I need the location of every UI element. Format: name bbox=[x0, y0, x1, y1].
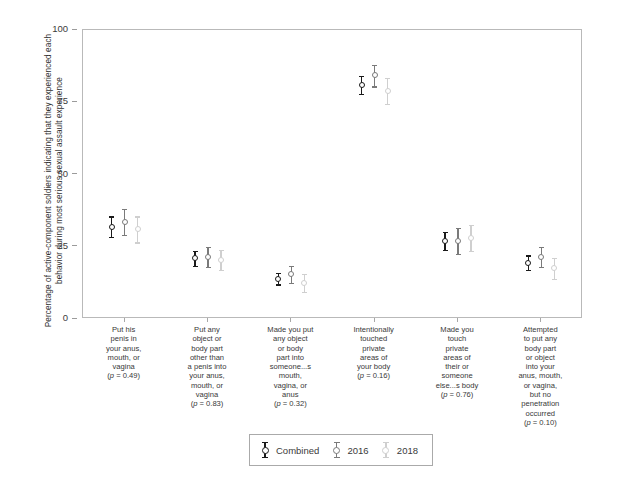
legend-item-2018[interactable]: 2018 bbox=[379, 440, 418, 460]
data-point-marker bbox=[442, 238, 448, 244]
x-axis-label-line: your anus, bbox=[84, 344, 164, 353]
ci-cap-lower bbox=[193, 266, 198, 267]
x-tick-mark bbox=[207, 318, 208, 322]
legend-point-marker bbox=[262, 447, 269, 454]
x-tick-mark bbox=[124, 318, 125, 322]
ci-cap-upper bbox=[372, 65, 377, 66]
data-point-marker bbox=[468, 235, 474, 241]
x-axis-label-line: into your bbox=[500, 362, 580, 371]
ci-cap-upper bbox=[456, 228, 461, 229]
legend-point-marker bbox=[333, 447, 340, 454]
legend-key-marker bbox=[258, 440, 272, 460]
ci-cap-lower bbox=[289, 283, 294, 284]
y-tick-label: 25 bbox=[40, 240, 68, 252]
ci-cap-upper bbox=[539, 247, 544, 248]
y-tick: 25 bbox=[40, 240, 82, 252]
x-axis-label-line: vagina bbox=[167, 390, 247, 399]
y-tick-mark bbox=[72, 173, 77, 174]
x-axis-label: Made you putany objector bodypart intoso… bbox=[250, 325, 330, 409]
x-axis-label-line: touch bbox=[417, 334, 497, 343]
x-axis-label-line: your body bbox=[334, 362, 414, 371]
x-axis-label-line: any object bbox=[250, 334, 330, 343]
y-axis-ticks: 0255075100 bbox=[0, 0, 82, 489]
ci-cap-lower bbox=[219, 270, 224, 271]
data-point-marker bbox=[275, 276, 281, 282]
chart-legend: Combined20162018 bbox=[249, 434, 433, 466]
x-tick-mark bbox=[457, 318, 458, 322]
x-axis-label-line: or vagina, bbox=[500, 381, 580, 390]
x-axis-label-line: Attempted bbox=[500, 325, 580, 334]
ci-cap-lower bbox=[206, 267, 211, 268]
legend-cap-upper bbox=[334, 442, 340, 443]
x-axis-label: Put hispenis inyour anus,mouth, orvagina… bbox=[84, 325, 164, 381]
ci-cap-lower bbox=[359, 94, 364, 95]
x-axis-label-line: or body bbox=[250, 344, 330, 353]
legend-cap-lower bbox=[262, 457, 268, 458]
x-axis-label-line: their or bbox=[417, 362, 497, 371]
x-axis-label-line: but no bbox=[500, 390, 580, 399]
x-axis-label-line: vagina, or bbox=[250, 381, 330, 390]
data-point-marker bbox=[551, 265, 557, 271]
legend-cap-upper bbox=[262, 442, 268, 443]
x-axis-pvalue: (p = 0.49) bbox=[84, 371, 164, 380]
ci-cap-upper bbox=[109, 216, 114, 217]
x-axis-pvalue: (p = 0.32) bbox=[250, 399, 330, 408]
ci-cap-lower bbox=[122, 235, 127, 236]
ci-cap-upper bbox=[219, 250, 224, 251]
data-point-marker bbox=[288, 271, 294, 277]
data-point-marker bbox=[192, 255, 198, 261]
data-point-marker bbox=[372, 72, 378, 78]
ci-cap-lower bbox=[276, 284, 281, 285]
x-axis-label-line: body part bbox=[167, 344, 247, 353]
x-axis-label-line: else...s body bbox=[417, 381, 497, 390]
legend-label: 2016 bbox=[348, 445, 369, 456]
y-tick: 0 bbox=[40, 312, 82, 324]
ci-cap-lower bbox=[469, 251, 474, 252]
data-point-marker bbox=[301, 280, 307, 286]
data-point-marker bbox=[122, 219, 128, 225]
x-axis-pvalue: (p = 0.76) bbox=[417, 390, 497, 399]
ci-cap-upper bbox=[443, 232, 448, 233]
legend-cap-lower bbox=[334, 457, 340, 458]
ci-cap-lower bbox=[443, 250, 448, 251]
x-axis-label-line: a penis into bbox=[167, 362, 247, 371]
legend-item-combined[interactable]: Combined bbox=[258, 440, 319, 460]
data-point-marker bbox=[109, 224, 115, 230]
data-point-marker bbox=[538, 254, 544, 260]
x-tick-mark bbox=[374, 318, 375, 322]
legend-key-marker bbox=[379, 440, 393, 460]
x-tick-mark bbox=[540, 318, 541, 322]
ci-cap-lower bbox=[456, 254, 461, 255]
x-axis-label-line: part into bbox=[250, 353, 330, 362]
x-axis-label-line: other than bbox=[167, 353, 247, 362]
x-axis-label-line: areas of bbox=[334, 353, 414, 362]
x-axis-label-line: someone...s bbox=[250, 362, 330, 371]
x-axis-pvalue: (p = 0.83) bbox=[167, 399, 247, 408]
x-axis-pvalue: (p = 0.10) bbox=[500, 418, 580, 427]
x-axis-label-line: private bbox=[417, 344, 497, 353]
ci-cap-lower bbox=[135, 242, 140, 243]
ci-cap-upper bbox=[276, 273, 281, 274]
x-axis-label-line: or object bbox=[500, 353, 580, 362]
x-axis-label-line: someone bbox=[417, 371, 497, 380]
chart-figure: Percentage of active-component soldiers … bbox=[0, 0, 618, 489]
data-point-marker bbox=[135, 226, 141, 232]
legend-key-marker bbox=[330, 440, 344, 460]
legend-cap-upper bbox=[383, 442, 389, 443]
x-axis-label-line: mouth, or bbox=[84, 353, 164, 362]
ci-cap-upper bbox=[469, 225, 474, 226]
x-axis-label-line: touched bbox=[334, 334, 414, 343]
ci-cap-lower bbox=[109, 237, 114, 238]
y-tick-mark bbox=[72, 318, 77, 319]
ci-cap-lower bbox=[552, 279, 557, 280]
legend-label: Combined bbox=[276, 445, 319, 456]
x-axis-pvalue: (p = 0.16) bbox=[334, 371, 414, 380]
ci-cap-lower bbox=[302, 292, 307, 293]
y-tick-label: 0 bbox=[40, 312, 68, 324]
data-point-marker bbox=[525, 260, 531, 266]
legend-item-2016[interactable]: 2016 bbox=[330, 440, 369, 460]
x-axis-label-line: body part bbox=[500, 344, 580, 353]
x-tick-mark bbox=[290, 318, 291, 322]
data-point-marker bbox=[385, 88, 391, 94]
x-axis-label-line: Made you put bbox=[250, 325, 330, 334]
